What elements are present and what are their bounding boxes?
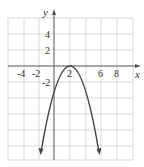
grid — [8, 18, 133, 160]
axes — [8, 9, 141, 160]
x-axis-label: x — [134, 68, 140, 80]
x-tick-6: 6 — [98, 68, 103, 79]
x-tick-neg2: -2 — [32, 68, 40, 79]
x-tick-2: 2 — [67, 68, 72, 79]
x-tick-neg4: -4 — [17, 68, 25, 79]
y-tick-4: 4 — [45, 29, 50, 40]
y-tick-2: 2 — [45, 45, 50, 56]
y-tick-neg2: -2 — [42, 77, 50, 88]
x-tick-8: 8 — [114, 68, 119, 79]
y-axis-arrow-icon — [52, 9, 56, 15]
parabola-graph: x y -4 -2 2 6 8 4 2 -2 — [0, 0, 144, 167]
y-axis-label: y — [42, 6, 48, 18]
